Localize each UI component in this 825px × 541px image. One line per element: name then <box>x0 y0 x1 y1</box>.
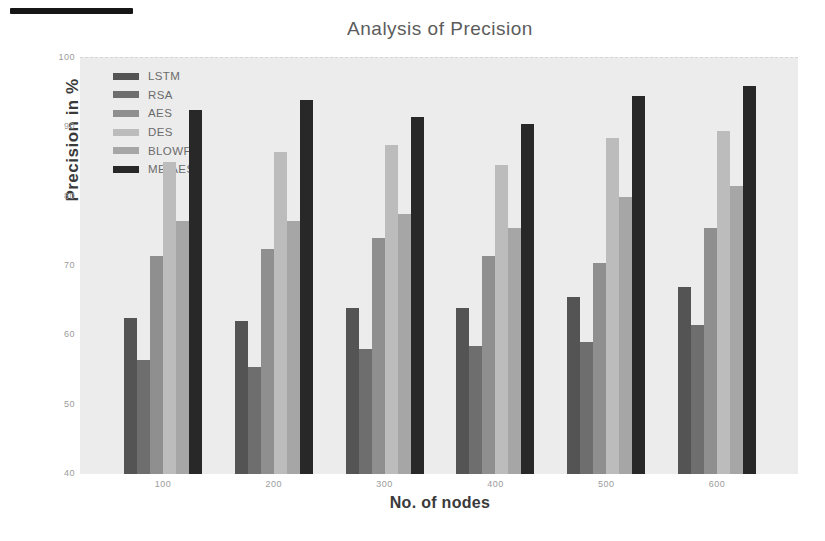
bar-lstm-500 <box>567 297 580 474</box>
bar-des-300 <box>385 145 398 474</box>
bar-des-400 <box>495 165 508 474</box>
legend-swatch-icon <box>113 147 139 154</box>
y-tick-label: 40 <box>49 468 75 478</box>
y-tick-label: 50 <box>49 399 75 409</box>
legend-label: RSA <box>148 89 173 101</box>
bar-lstm-100 <box>124 318 137 474</box>
bar-me-aes-100 <box>189 110 202 474</box>
bar-me-aes-400 <box>521 124 534 474</box>
scanned-figure-page: { "figure": { "page_background": "#fffff… <box>0 0 825 541</box>
x-axis-label: No. of nodes <box>80 494 800 512</box>
bar-blowfis-400 <box>508 228 521 474</box>
legend-swatch-icon <box>113 166 139 173</box>
bar-rsa-100 <box>137 360 150 474</box>
bar-lstm-300 <box>346 308 359 474</box>
bar-aes-400 <box>482 256 495 474</box>
x-tick-label: 200 <box>244 479 304 489</box>
bar-lstm-400 <box>456 308 469 474</box>
bar-blowfis-200 <box>287 221 300 474</box>
bar-blowfis-600 <box>730 186 743 474</box>
x-tick-label: 100 <box>133 479 193 489</box>
bar-aes-500 <box>593 263 606 474</box>
bar-rsa-400 <box>469 346 482 474</box>
bar-des-600 <box>717 131 730 474</box>
y-tick-label: 70 <box>49 260 75 270</box>
y-tick-label: 60 <box>49 329 75 339</box>
legend-swatch-icon <box>113 129 139 136</box>
x-tick-label: 400 <box>465 479 525 489</box>
bar-aes-100 <box>150 256 163 474</box>
bar-blowfis-100 <box>176 221 189 474</box>
y-tick-label: 90 <box>49 121 75 131</box>
legend-label: LSTM <box>148 70 180 82</box>
chart-title: Analysis of Precision <box>80 18 800 40</box>
bar-rsa-200 <box>248 367 261 474</box>
x-tick-label: 300 <box>355 479 415 489</box>
bar-blowfis-500 <box>619 197 632 474</box>
legend-swatch-icon <box>113 73 139 80</box>
bar-aes-200 <box>261 249 274 474</box>
bar-aes-300 <box>372 238 385 474</box>
bar-des-200 <box>274 152 287 474</box>
bar-blowfis-300 <box>398 214 411 474</box>
legend-label: DES <box>148 126 173 138</box>
bar-rsa-500 <box>580 342 593 474</box>
plot-area: LSTMRSAAESDESBLOWFISME-AES <box>80 57 798 474</box>
bar-rsa-300 <box>359 349 372 474</box>
bar-me-aes-200 <box>300 100 313 474</box>
bar-me-aes-600 <box>743 86 756 474</box>
y-tick-label: 80 <box>49 191 75 201</box>
bar-me-aes-300 <box>411 117 424 474</box>
bar-des-500 <box>606 138 619 474</box>
x-tick-label: 500 <box>576 479 636 489</box>
bar-des-100 <box>163 162 176 474</box>
legend-swatch-icon <box>113 110 139 117</box>
y-axis-label: Precision in % <box>63 5 83 275</box>
bar-me-aes-500 <box>632 96 645 474</box>
x-tick-label: 600 <box>687 479 747 489</box>
bar-rsa-600 <box>691 325 704 474</box>
legend-item-lstm: LSTM <box>113 67 203 86</box>
bar-lstm-600 <box>678 287 691 474</box>
legend-label: AES <box>148 107 172 119</box>
legend-swatch-icon <box>113 91 139 98</box>
y-tick-label: 100 <box>49 52 75 62</box>
bar-aes-600 <box>704 228 717 474</box>
bar-lstm-200 <box>235 321 248 474</box>
legend-item-rsa: RSA <box>113 86 203 105</box>
